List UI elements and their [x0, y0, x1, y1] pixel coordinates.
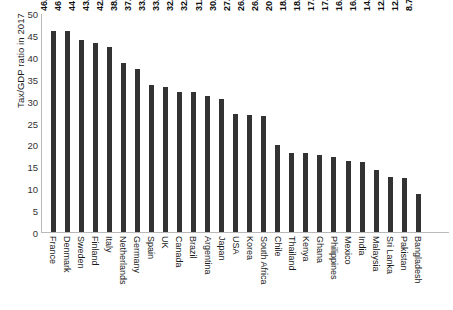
x-label-slot: France [46, 236, 60, 298]
bar-value-label: 12.6 [376, 0, 386, 11]
bar: 33.7 [149, 85, 154, 232]
y-tick-label: 40 [8, 52, 38, 63]
x-label-slot: Pakistan [397, 236, 411, 298]
bar: 26.9 [247, 115, 252, 232]
bar-slot: 12.6 [383, 14, 397, 232]
x-label-slot: Sri Lanka [383, 236, 397, 298]
bar-slot: 17.1 [327, 14, 341, 232]
bar-slot: 20 [271, 14, 285, 232]
bar-value-label: 18.1 [291, 0, 301, 11]
bar: 32.2 [177, 92, 182, 232]
bar: 12.4 [402, 178, 407, 232]
x-label-slot: Chile [271, 236, 285, 298]
bar-slot: 17.6 [313, 14, 327, 232]
bar: 32.2 [191, 92, 196, 232]
x-label-slot: Philippines [327, 236, 341, 298]
bar-value-label: 33.7 [137, 0, 147, 11]
bar-value-label: 26.9 [235, 0, 245, 11]
bar-slot: 26.6 [257, 14, 271, 232]
bar-slot: 18.1 [285, 14, 299, 232]
bar: 14.3 [374, 170, 379, 232]
bar-slot: 31.3 [201, 14, 215, 232]
x-axis-category-label: Finland [90, 236, 100, 266]
bar-slot: 33.3 [158, 14, 172, 232]
bar-slot: 27.1 [229, 14, 243, 232]
y-tick-label: 50 [8, 9, 38, 20]
y-tick-label: 30 [8, 96, 38, 107]
bar: 33.3 [163, 87, 168, 232]
bar: 46.2 [51, 31, 56, 232]
bar-value-label: 8.7 [404, 0, 414, 11]
x-label-slot: Denmark [60, 236, 74, 298]
x-label-slot: UK [158, 236, 172, 298]
bar-value-label: 12.4 [390, 0, 400, 11]
bar-value-label: 43.3 [81, 0, 91, 11]
x-axis-category-label: UK [160, 236, 170, 249]
x-axis-category-label: Philippines [329, 236, 339, 280]
bar: 44 [79, 40, 84, 232]
bar-value-label: 32.2 [179, 0, 189, 11]
y-tick-label: 5 [8, 206, 38, 217]
bar: 27.1 [233, 114, 238, 232]
bar-slot: 42.4 [102, 14, 116, 232]
bar-slot: 46.2 [46, 14, 60, 232]
bar: 38.8 [121, 63, 126, 232]
x-label-slot: Finland [88, 236, 102, 298]
bar: 42.4 [107, 47, 112, 232]
bar: 31.3 [205, 96, 210, 232]
bar-chart: Tax/GDP ratio in 2017 504540353025201510… [0, 0, 453, 310]
bar-slot: 8.7 [411, 14, 425, 232]
x-axis-category-label: Germany [132, 236, 142, 273]
x-label-slot: South Africa [257, 236, 271, 298]
bar: 37.5 [135, 69, 140, 233]
x-label-slot: Sweden [74, 236, 88, 298]
bar-slot: 33.7 [144, 14, 158, 232]
bar-value-label: 33.3 [151, 0, 161, 11]
bar-value-label: 27.1 [221, 0, 231, 11]
x-label-slot: Thailand [285, 236, 299, 298]
x-axis-category-label: Pakistan [399, 236, 409, 271]
x-axis-category-label: Spain [146, 236, 156, 259]
x-label-slot: Kenya [299, 236, 313, 298]
bar-slot: 16.2 [341, 14, 355, 232]
bar-value-label: 26.6 [249, 0, 259, 11]
bar: 18.1 [303, 153, 308, 232]
bar-value-label: 31.3 [193, 0, 203, 11]
bar-slot: 16.1 [355, 14, 369, 232]
bar-value-label: 32.2 [165, 0, 175, 11]
x-axis-category-label: USA [231, 236, 241, 255]
bar: 30.6 [219, 99, 224, 232]
bar-value-label: 16.2 [334, 0, 344, 11]
bar-slot: 32.2 [172, 14, 186, 232]
bar-slot: 32.2 [186, 14, 200, 232]
x-label-slot: Ghana [313, 236, 327, 298]
bar: 43.3 [93, 43, 98, 232]
y-tick-label: 35 [8, 74, 38, 85]
bar-slot: 18.1 [299, 14, 313, 232]
bar-value-label: 46 [53, 1, 63, 11]
bar-value-label: 17.6 [305, 0, 315, 11]
x-axis-category-label: Malaysia [371, 236, 381, 272]
y-tick-label: 0 [8, 228, 38, 239]
bar-slot: 12.4 [397, 14, 411, 232]
y-tick-label: 45 [8, 30, 38, 41]
x-label-slot: Germany [130, 236, 144, 298]
x-axis-category-label: India [357, 236, 367, 256]
bar: 20 [275, 145, 280, 232]
x-axis-category-label: Sweden [76, 236, 86, 269]
x-label-slot: Korea [243, 236, 257, 298]
x-label-slot: India [355, 236, 369, 298]
bar-value-label: 18.1 [277, 0, 287, 11]
bar-slot: 46 [60, 14, 74, 232]
bars-container: 46.2464443.342.438.837.533.733.332.232.2… [41, 14, 449, 232]
x-axis-category-label: Argentina [203, 236, 213, 275]
x-axis-labels: FranceDenmarkSwedenFinlandItalyNetherlan… [41, 236, 449, 298]
x-axis-category-label: France [48, 236, 58, 264]
bar: 8.7 [416, 194, 421, 232]
bar: 16.1 [360, 162, 365, 232]
bar-slot: 14.3 [369, 14, 383, 232]
bar-slot: 38.8 [116, 14, 130, 232]
bar: 17.1 [331, 157, 336, 232]
y-tick-label: 20 [8, 140, 38, 151]
x-axis-category-label: South Africa [259, 236, 269, 285]
